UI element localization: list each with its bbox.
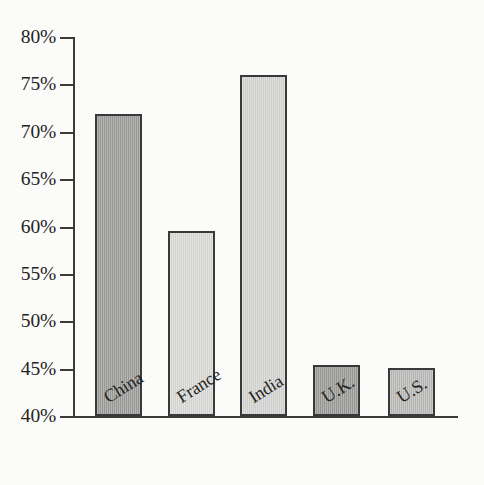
y-axis-tick-mark	[60, 132, 73, 134]
page-top-text-bleed	[0, 0, 484, 16]
y-axis-tick-mark	[60, 321, 73, 323]
y-axis-tick-label: 55%	[21, 263, 56, 285]
y-axis-tick-mark	[60, 179, 73, 181]
plot-area: 80%75%70%65%60%55%50%45%40%	[73, 37, 458, 418]
y-axis-line	[73, 37, 75, 418]
y-axis-tick-label: 70%	[21, 121, 56, 143]
y-axis-tick-label: 50%	[21, 310, 56, 332]
y-axis-tick-mark	[60, 274, 73, 276]
x-axis-line	[73, 416, 458, 418]
chart-page: 80%75%70%65%60%55%50%45%40% ChinaFranceI…	[0, 0, 484, 485]
y-axis-tick-label: 45%	[21, 357, 56, 379]
y-axis-tick-label: 80%	[21, 26, 56, 48]
bar-india	[240, 75, 287, 416]
y-axis-tick-mark	[60, 369, 73, 371]
y-axis-tick-mark	[60, 227, 73, 229]
y-axis-tick-mark	[60, 84, 73, 86]
y-axis-tick-label: 75%	[21, 73, 56, 95]
y-axis-tick-label: 40%	[21, 405, 56, 427]
y-axis-tick-mark	[60, 416, 73, 418]
y-axis-tick-label: 60%	[21, 215, 56, 237]
y-axis-tick-label: 65%	[21, 168, 56, 190]
y-axis-tick-mark	[60, 37, 73, 39]
